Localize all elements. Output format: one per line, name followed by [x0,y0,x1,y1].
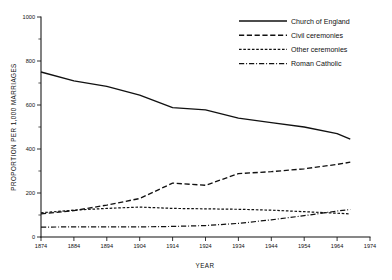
legend-label-roman-catholic: Roman Catholic [291,60,342,68]
legend-label-church-of-england: Church of England [291,18,350,26]
x-tick-label: 1874 [35,243,47,249]
x-tick-label: 1974 [364,243,376,249]
y-axis-title: PROPORTION PER 1,000 MARRIAGES [10,63,17,190]
plot-background [0,0,392,280]
x-tick-label: 1964 [331,243,343,249]
x-tick-label: 1884 [68,243,80,249]
x-axis-title: YEAR [196,262,215,269]
y-tick-label: 600 [26,102,35,108]
x-tick-label: 1924 [199,243,211,249]
chart-figure: 1874188418941904191419241934194419541964… [0,0,392,280]
legend-label-civil-ceremonies: Civil ceremonies [291,32,343,40]
y-tick-label: 800 [26,58,35,64]
x-tick-label: 1894 [101,243,113,249]
x-tick-label: 1934 [232,243,244,249]
legend-label-other-ceremonies: Other ceremonies [291,46,348,54]
y-tick-label: 0 [32,234,35,240]
x-tick-label: 1944 [265,243,277,249]
y-tick-label: 400 [26,146,35,152]
y-tick-label: 200 [26,190,35,196]
x-tick-label: 1954 [298,243,310,249]
x-tick-label: 1914 [166,243,178,249]
marriage-ceremonies-line-chart: 1874188418941904191419241934194419541964… [0,0,392,280]
y-tick-label: 1000 [23,14,35,20]
x-tick-label: 1904 [133,243,145,249]
